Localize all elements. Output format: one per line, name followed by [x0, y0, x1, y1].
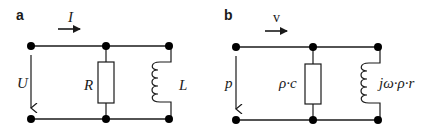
current-label: I — [67, 9, 74, 25]
node-bottom-right — [165, 115, 173, 123]
node-top-right — [374, 43, 382, 51]
inductor-icon — [361, 47, 380, 120]
resistor-label: R — [83, 77, 93, 93]
node-bottom-left — [27, 115, 35, 123]
node-bottom-middle — [309, 116, 317, 124]
inductor-label: L — [178, 77, 187, 93]
resistor-icon — [305, 64, 321, 104]
node-top-left — [232, 43, 240, 51]
velocity-label: v — [273, 10, 280, 25]
node-bottom-left — [232, 116, 240, 124]
node-bottom-right — [374, 116, 382, 124]
resistor-label: ρ·c — [278, 75, 297, 91]
node-top-right — [165, 42, 173, 50]
circuit-figure: a I U R L b v p — [0, 0, 433, 131]
inductor-label: jω·ρ·r — [377, 75, 414, 91]
pressure-label: p — [224, 75, 233, 91]
resistor-icon — [98, 62, 114, 103]
panel-b: b v p ρ·c jω·ρ·r — [224, 7, 414, 124]
panel-a: a I U R L — [16, 7, 187, 123]
node-top-middle — [102, 42, 110, 50]
voltage-label: U — [17, 75, 29, 91]
inductor-icon — [152, 46, 171, 119]
panel-label-b: b — [224, 7, 233, 23]
node-top-left — [27, 42, 35, 50]
node-top-middle — [309, 43, 317, 51]
panel-label-a: a — [16, 7, 24, 23]
node-bottom-middle — [102, 115, 110, 123]
